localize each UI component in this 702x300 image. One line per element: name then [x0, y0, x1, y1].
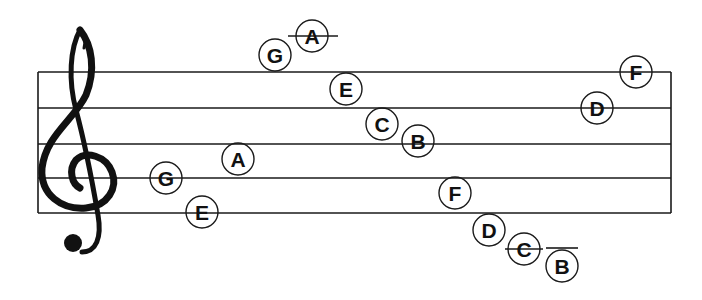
- background: [0, 0, 702, 300]
- treble-clef-dot: [64, 234, 82, 252]
- note-label: G: [158, 167, 174, 190]
- note-label: D: [481, 219, 496, 242]
- note-label: D: [589, 97, 604, 120]
- note-label: A: [230, 148, 245, 171]
- note-label: F: [449, 182, 462, 205]
- note-label: C: [374, 113, 389, 136]
- note-label: E: [195, 201, 209, 224]
- note-label: C: [516, 238, 531, 261]
- note-label: B: [410, 130, 425, 153]
- note-label: E: [339, 78, 353, 101]
- note-label: B: [554, 255, 569, 278]
- music-staff-diagram: GEAGAECBFDCBDF: [0, 0, 702, 300]
- note-label: F: [630, 61, 643, 84]
- note-label: G: [267, 44, 283, 67]
- note-label: A: [304, 25, 319, 48]
